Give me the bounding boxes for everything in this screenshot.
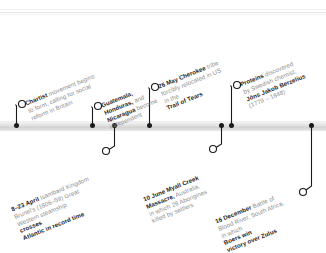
endpoint-circle-great-western [103, 148, 110, 155]
connector-myall-creek [216, 127, 222, 148]
axis-node-blood-river[interactable] [309, 123, 314, 128]
axis-node-chartist[interactable] [14, 123, 19, 128]
connector-blood-river [306, 127, 312, 190]
axis-node-cherokee[interactable] [147, 123, 152, 128]
axis-node-proteins[interactable] [229, 123, 234, 128]
connector-proteins [231, 86, 232, 126]
connector-chartist [16, 105, 17, 126]
axis-node-myall-creek[interactable] [219, 123, 224, 128]
axis-node-central-america[interactable] [90, 123, 95, 128]
endpoint-circle-blood-river [300, 189, 307, 196]
endpoint-circle-myall-creek [210, 146, 217, 153]
timeline-canvas: Chartist movement beginsto form, calling… [0, 0, 326, 253]
